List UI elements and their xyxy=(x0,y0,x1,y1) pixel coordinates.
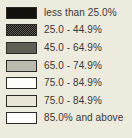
legend-row: 25.0 - 44.9% xyxy=(0,22,132,40)
swatch-fill-icon xyxy=(7,113,36,123)
legend-label: 65.0 - 74.9% xyxy=(44,61,102,71)
legend-swatch-65-to-74 xyxy=(6,60,37,72)
legend-label: 75.0 - 84.9% xyxy=(44,96,102,106)
legend-swatch-75-to-84-a xyxy=(6,77,37,89)
map-legend: less than 25.0% 25.0 - 44.9% 45.0 - 64.9… xyxy=(0,0,132,138)
legend-row: less than 25.0% xyxy=(0,4,132,22)
legend-label: 85.0% and above xyxy=(44,113,123,123)
swatch-fill-icon xyxy=(7,61,36,71)
legend-label: less than 25.0% xyxy=(44,8,117,18)
legend-row: 75.0 - 84.9% xyxy=(0,74,132,92)
swatch-fill-icon xyxy=(7,96,36,106)
legend-label: 75.0 - 84.9% xyxy=(44,78,102,88)
legend-row: 75.0 - 84.9% xyxy=(0,92,132,110)
swatch-fill-icon xyxy=(7,43,36,53)
legend-swatch-85-and-above xyxy=(6,112,37,124)
legend-row: 85.0% and above xyxy=(0,110,132,128)
legend-label: 25.0 - 44.9% xyxy=(44,25,102,35)
legend-swatch-45-to-64 xyxy=(6,42,37,54)
legend-swatch-75-to-84-b xyxy=(6,95,37,107)
swatch-fill-icon xyxy=(7,8,36,18)
legend-swatch-less-than-25 xyxy=(6,7,37,19)
swatch-fill-icon xyxy=(7,78,36,88)
legend-label: 45.0 - 64.9% xyxy=(44,43,102,53)
legend-row: 65.0 - 74.9% xyxy=(0,57,132,75)
legend-swatch-25-to-44 xyxy=(6,24,37,36)
swatch-fill-icon xyxy=(7,25,36,35)
legend-row: 45.0 - 64.9% xyxy=(0,39,132,57)
